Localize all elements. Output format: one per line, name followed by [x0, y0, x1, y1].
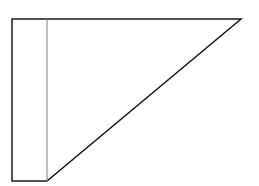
diagram-canvas [0, 0, 259, 186]
trapezoid-outline [12, 19, 241, 181]
